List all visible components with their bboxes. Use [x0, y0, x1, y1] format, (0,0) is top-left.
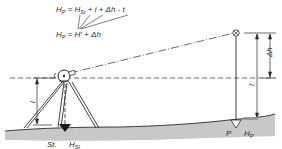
tripod	[24, 82, 99, 128]
ground	[5, 114, 275, 141]
dimension-t	[244, 33, 276, 118]
surveying-diagram: HP = HSt + i + Δh - t HP = H' + Δh i t Δ…	[0, 0, 282, 149]
formula-connectors	[78, 15, 103, 29]
inclined-sight-line	[70, 33, 234, 73]
label-delta-h: Δh	[265, 47, 274, 58]
label-i: i	[28, 101, 37, 103]
label-t: t	[247, 83, 256, 86]
theodolite-icon	[54, 70, 75, 82]
point-ground-highlight	[244, 117, 258, 120]
formula-line-1: HP = HSt + i + Δh - t	[56, 5, 126, 15]
target-icon	[233, 30, 239, 36]
label-station: St.	[47, 140, 57, 149]
label-station-height: HSt	[69, 140, 80, 149]
formula-line-2: HP = H' + Δh	[56, 30, 101, 40]
label-point: P	[226, 129, 232, 138]
